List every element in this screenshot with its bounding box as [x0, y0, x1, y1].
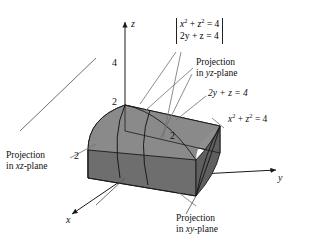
tick-z-4: 4	[112, 57, 117, 68]
callout-xz-line2: in xz-plane	[6, 161, 47, 172]
system-right-bar	[222, 18, 223, 44]
callout-xy-line2: in xy-plane	[176, 224, 218, 235]
equation-cylinder: x2 + z2 = 4	[228, 114, 267, 125]
callout-xz-line1: Projection	[6, 150, 47, 161]
tick-x-2: 2	[74, 150, 79, 161]
figure-canvas: x2 + z2 = 4 2y + z = 4 z x y 4 2 2 2 Pro…	[0, 0, 309, 249]
axis-x	[72, 178, 125, 214]
callout-xy-line1: Projection	[176, 213, 218, 224]
system-of-equations: x2 + z2 = 4 2y + z = 4	[176, 18, 223, 44]
axis-label-z: z	[131, 18, 135, 29]
callout-yz-line1: Projection	[196, 57, 237, 68]
axis-label-x: x	[66, 214, 70, 225]
axis-label-y: y	[278, 172, 282, 183]
system-line-1: x2 + z2 = 4	[180, 19, 219, 31]
callout-projection-xz: Projection in xz-plane	[6, 150, 47, 171]
equation-plane: 2y + z = 4	[208, 88, 248, 99]
tick-z-2: 2	[112, 96, 117, 107]
callout-yz-line2: in yz-plane	[196, 68, 237, 79]
system-line-2: 2y + z = 4	[180, 31, 219, 43]
callout-projection-yz: Projection in yz-plane	[196, 57, 237, 78]
callout-projection-xy: Projection in xy-plane	[176, 213, 218, 234]
system-left-bar	[176, 18, 177, 44]
tick-y-2: 2	[170, 130, 175, 141]
